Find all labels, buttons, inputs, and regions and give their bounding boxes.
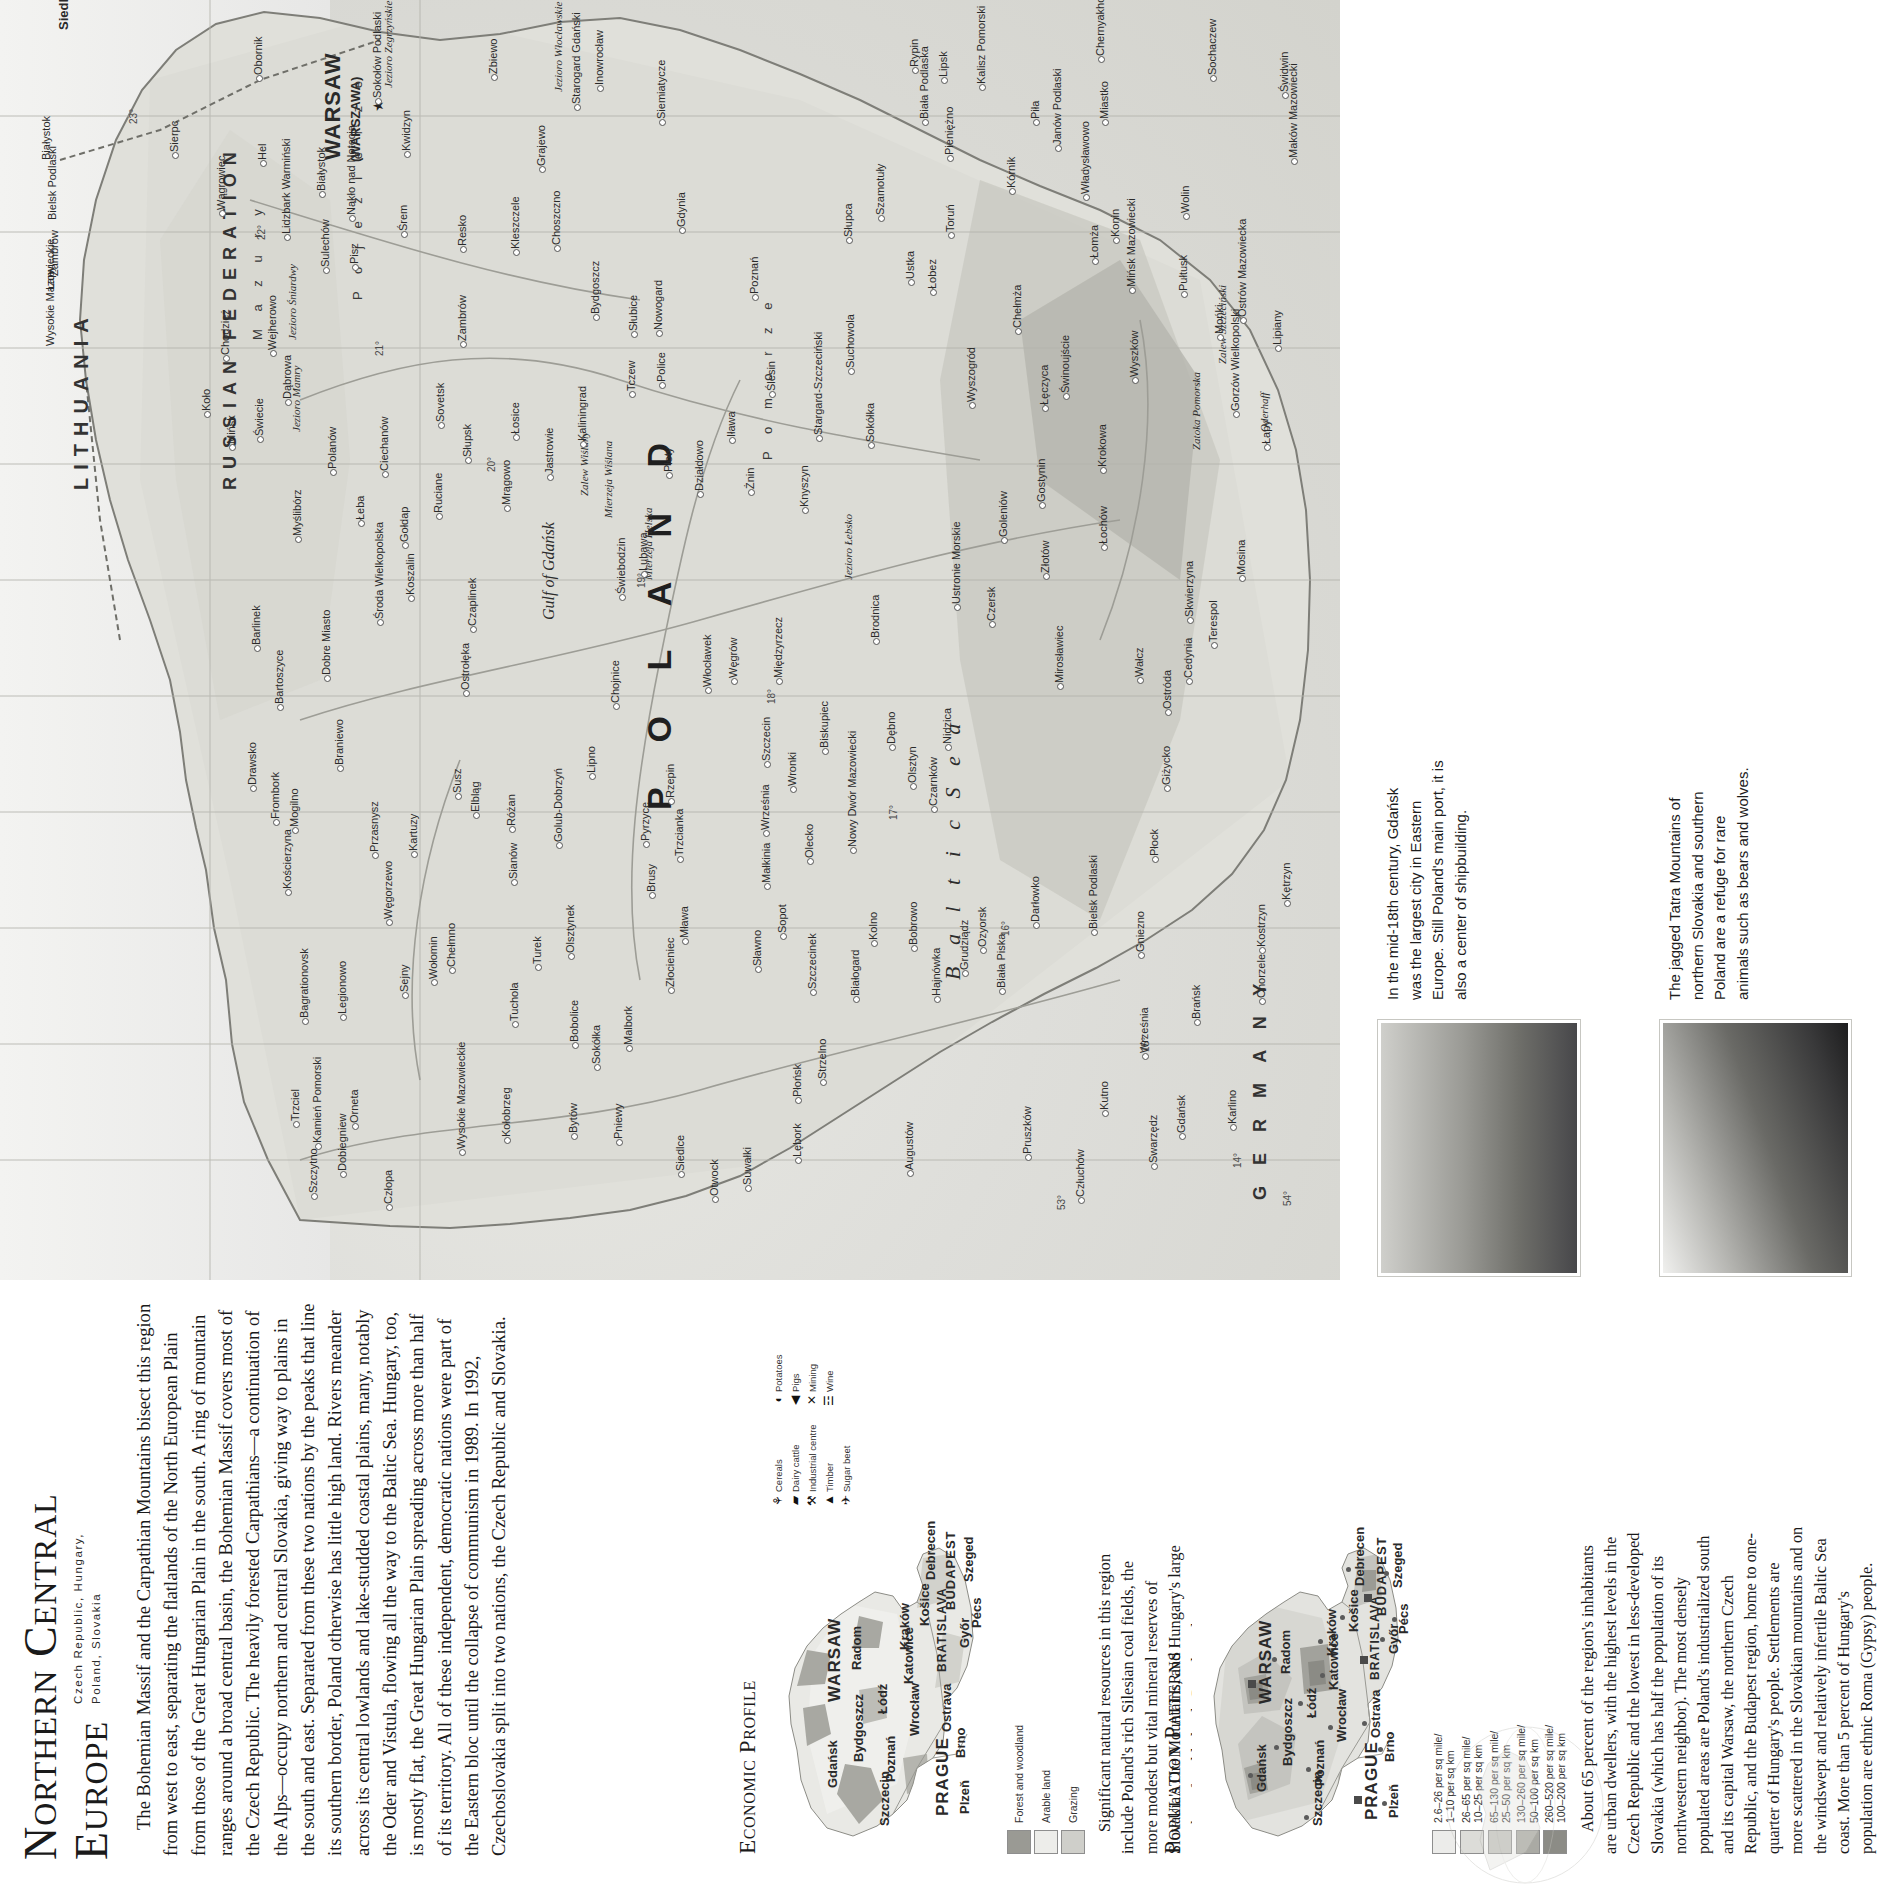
map-city-dot [293, 1121, 300, 1128]
map-city-dot [556, 842, 563, 849]
map-city-label: Ostrów Mazowiecka [1236, 219, 1248, 317]
map-city-dot [795, 1097, 802, 1104]
map-city-label: Biała Piska [995, 934, 1007, 988]
map-city-label: Człuchów [1074, 1149, 1086, 1197]
map-city-label: Małkinia [760, 843, 772, 883]
map-city-dot [571, 1133, 578, 1140]
map-city-label: Mińsk [225, 415, 237, 444]
map-city-dot [1230, 1124, 1237, 1131]
map-city-dot [319, 191, 326, 198]
map-city-dot [386, 1204, 393, 1211]
map-city-dot [465, 457, 472, 464]
map-city-dot [1132, 377, 1139, 384]
pop-map-label-budapest: BUDAPEST [1374, 1536, 1389, 1616]
map-city-label: Gorzów Wielkopolski [1229, 309, 1241, 411]
map-city-label: Legionowo [336, 961, 348, 1014]
map-city-label: Augustów [903, 1122, 915, 1170]
map-city-label: Szczecinek [806, 933, 818, 989]
symbol-label-pigs: Pigs [790, 1374, 801, 1392]
map-city-label: Maków Mazowiecki [1287, 63, 1299, 158]
map-city-label: Krokowa [1096, 424, 1108, 467]
map-city-label: Golub-Dobrzyń [552, 768, 564, 842]
map-city-dot [764, 883, 771, 890]
map-city-dot [764, 761, 771, 768]
map-water-jezioro-sniardwy: Jezioro Śniardwy [286, 264, 298, 340]
map-city-dot [324, 675, 331, 682]
map-city-label: Sopot [776, 904, 788, 933]
timber-icon: ▲ [822, 1492, 837, 1508]
map-city-dot [790, 786, 797, 793]
legend-item: Grazing [1061, 1524, 1085, 1854]
map-city-dot [776, 678, 783, 685]
map-water-jezioro-wloclawskie: Jezioro Włocławskie [552, 2, 564, 92]
symbol-legend-item: ◀Pigs [788, 1314, 803, 1408]
map-city-dot [846, 237, 853, 244]
map-city-label: Gdynia [675, 192, 687, 227]
map-city-label: Ruciane [432, 473, 444, 513]
main-map-poland[interactable]: 14° 15° 16° 17° 18° 19° 20° 21° 22° 23° … [0, 0, 1340, 1280]
map-city-label: Mińsk Mazowiecki [1125, 198, 1137, 287]
map-city-label: Brodnica [869, 595, 881, 638]
map-city-label: Lipno [585, 746, 597, 773]
map-city-label: Chernyakhovsk [1094, 0, 1106, 56]
symbol-legend-item: ⚘Cereals [771, 1414, 786, 1508]
pop-map-label-szeged: Szeged [1390, 1542, 1405, 1588]
map-city-dot [911, 945, 918, 952]
pop-map-label-prague: PRAGUE [1362, 1741, 1382, 1820]
map-city-dot [1217, 334, 1224, 341]
map-city-label: Suwałki [741, 1147, 753, 1185]
eco-map-label-wroclaw: Wrocław [907, 1683, 922, 1736]
map-city-label: Toruń [944, 204, 956, 232]
economic-profile-symbol-legend: ⚘Cereals ◖Potatoes ▰Dairy cattle ◀Pigs ⚒… [771, 1308, 854, 1508]
map-city-label: Lipsk [937, 51, 949, 77]
pop-map-label-plzen: Plzeň [1386, 1784, 1401, 1818]
map-city-dot [292, 827, 299, 834]
map-city-label: Szczecin [760, 717, 772, 761]
economic-profile-inset-map: Szczecin Gdańsk Bydgoszcz Poznań Łódź WA… [767, 1524, 999, 1854]
map-city-dot [463, 690, 470, 697]
map-city-label: Pieniężno [943, 107, 955, 155]
map-city-label: Zambrów [456, 295, 468, 341]
map-city-dot [1039, 502, 1046, 509]
map-city-dot [337, 765, 344, 772]
map-city-dot [504, 505, 511, 512]
map-city-label: Gniezno [1134, 911, 1146, 952]
legend-label-grazing: Grazing [1067, 1786, 1079, 1823]
map-city-label: Knyszyn [798, 465, 810, 507]
map-city-dot [748, 489, 755, 496]
map-city-dot [979, 84, 986, 91]
symbol-legend-item: ✕Mining [805, 1314, 820, 1408]
symbol-label-cereals: Cereals [773, 1459, 784, 1492]
map-city-label: Siedlce [674, 1135, 686, 1171]
dairy-cattle-icon: ▰ [788, 1492, 803, 1508]
sugar-beet-icon: ✈ [839, 1492, 854, 1508]
map-city-dot [848, 368, 855, 375]
page-title: Northern Central [18, 1300, 65, 1860]
map-city-dot [1211, 642, 1218, 649]
map-city-dot [172, 152, 179, 159]
map-water-mierzeja-wislana: Mierzeja Wiślana [602, 441, 614, 518]
map-city-dot [820, 1079, 827, 1086]
map-city-dot [1194, 1019, 1201, 1026]
map-water-gulf-of-gdansk: Gulf of Gdańsk [540, 522, 558, 620]
map-city-label: Trzciel [289, 1089, 301, 1121]
map-city-dot [1179, 1133, 1186, 1140]
map-city-dot [656, 330, 663, 337]
population-patterns-text: About 65 percent of the region's inhabit… [1576, 1526, 1879, 1854]
map-city-label: Lubawa [637, 532, 649, 571]
map-city-label: Mrągowo [500, 460, 512, 505]
intro-paragraph: The Bohemian Massif and the Carpathian M… [130, 1296, 513, 1856]
map-city-dot [284, 234, 291, 241]
map-city-label: Chorzele [1255, 954, 1267, 998]
map-city-dot [1291, 158, 1298, 165]
map-city-dot [1009, 188, 1016, 195]
map-city-label: Przasnysz [368, 801, 380, 852]
map-city-dot [580, 441, 587, 448]
pop-map-label-ostrava: Ostrava [1368, 1690, 1383, 1738]
map-city-dot [853, 996, 860, 1003]
map-city-dot [1113, 237, 1120, 244]
map-city-dot [594, 1064, 601, 1071]
map-city-dot [930, 289, 937, 296]
